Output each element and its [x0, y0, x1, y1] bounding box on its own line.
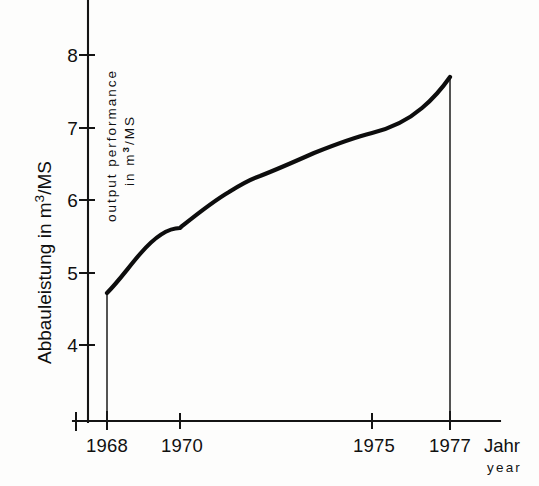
- inner-annotation-line2-prefix: in m: [122, 152, 137, 186]
- x-tick-label-1975: 1975: [347, 437, 401, 456]
- inner-annotation-units: in m3/MS: [123, 115, 137, 186]
- y-tick-label-8: 8: [52, 46, 78, 65]
- x-tick-label-1970: 1970: [155, 437, 209, 456]
- inner-annotation-line1: output performance: [104, 69, 119, 222]
- y-tick-label-7: 7: [52, 119, 78, 138]
- chart-plot-area: [0, 0, 539, 486]
- x-tick-label-1968: 1968: [80, 437, 134, 456]
- y-tick-label-6: 6: [52, 191, 78, 210]
- y-axis-title: Abbauleistung in m3/MS: [35, 161, 54, 364]
- inner-annotation-output-performance: output performance: [105, 69, 119, 222]
- x-tick-label-1977: 1977: [423, 437, 477, 456]
- x-axis-title: Jahr: [484, 437, 520, 456]
- y-tick-label-4: 4: [52, 336, 78, 355]
- inner-annotation-line2-exponent: 3: [120, 145, 131, 152]
- y-tick-label-5: 5: [52, 264, 78, 283]
- x-axis-subtitle: year: [487, 461, 522, 475]
- chart-container: 8 7 6 5 4 1968 1970 1975 1977 Abbauleist…: [0, 0, 539, 486]
- y-axis-title-exponent: 3: [32, 195, 47, 203]
- inner-annotation-line2-tail: /MS: [122, 115, 137, 145]
- y-axis-title-tail: /MS: [34, 161, 55, 195]
- y-axis-title-main: Abbauleistung in m: [34, 202, 55, 364]
- data-line-abbauleistung: [107, 77, 450, 293]
